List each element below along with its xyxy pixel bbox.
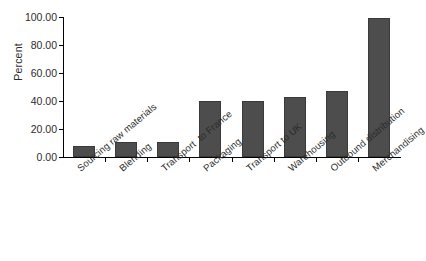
x-axis-tick-labels: Sourcing raw materialsBlendingTransport … <box>0 0 426 261</box>
x-axis-tick-label: Sourcing raw materials <box>75 101 159 174</box>
bar-chart-figure: Percent 0.0020.0040.0060.0080.00100.00 S… <box>0 0 426 261</box>
x-axis-tick-label: Packaging <box>201 136 243 174</box>
x-axis-tick-label: Outbound distribution <box>328 105 407 173</box>
x-axis-tick-label: Blending <box>117 140 153 173</box>
x-axis-tick-label: Transport to France <box>159 108 234 173</box>
